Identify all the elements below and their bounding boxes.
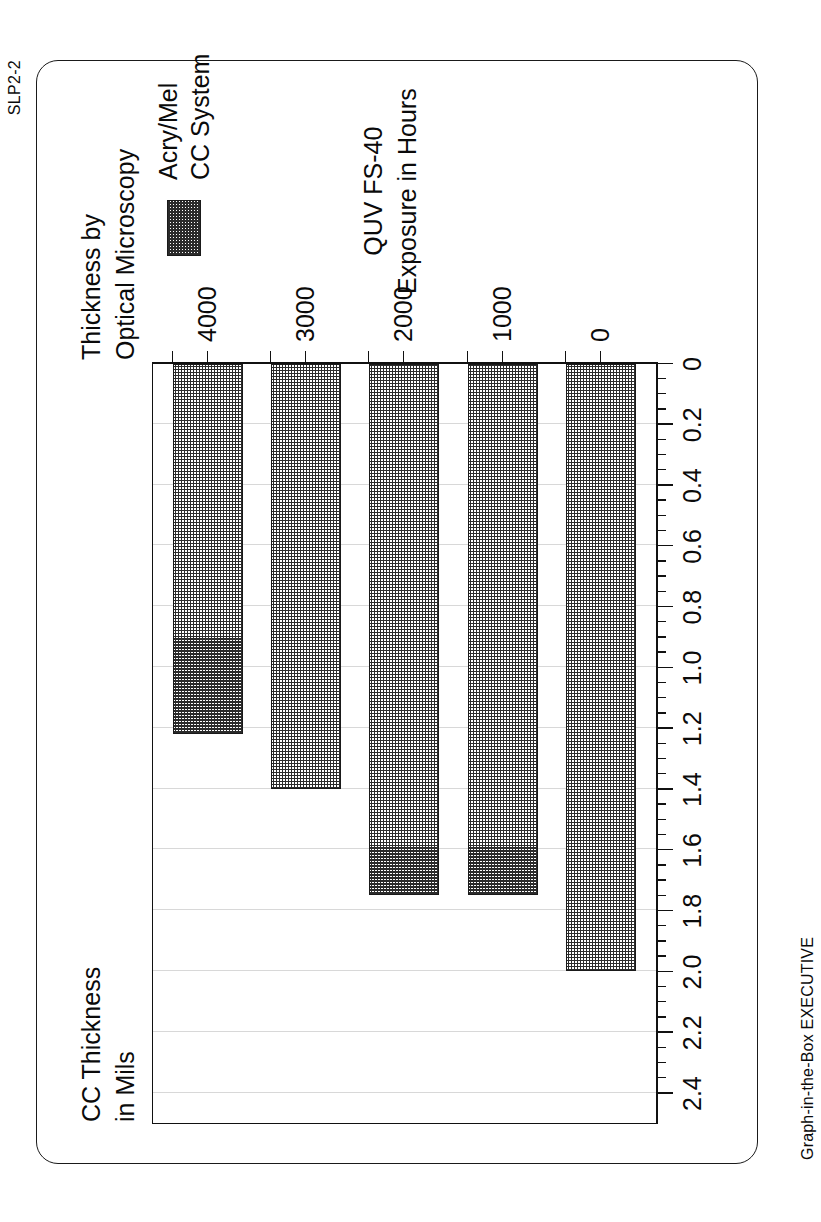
- value-axis-tick: [657, 910, 673, 911]
- bar-series-layer: [153, 364, 656, 1123]
- value-axis-tick-label: 1.0: [678, 651, 707, 686]
- category-axis-boundary-tick: [467, 351, 468, 364]
- category-axis-tick: [600, 351, 601, 364]
- value-axis-tick: [657, 545, 673, 546]
- value-axis-minor-tick: [657, 773, 666, 774]
- category-axis-label: 1000: [488, 286, 517, 342]
- value-axis-tick-label: 1.2: [678, 711, 707, 746]
- category-axis-tick: [207, 351, 208, 364]
- value-axis-line: [657, 364, 658, 1124]
- chart-title-line1: Thickness by: [74, 149, 108, 360]
- value-axis-title-line1: CC Thickness: [74, 967, 108, 1122]
- value-axis-minor-tick: [657, 439, 666, 440]
- category-axis-tick: [305, 351, 306, 364]
- legend-label: Acry/Mel CC System: [152, 54, 216, 180]
- value-axis-minor-tick: [657, 515, 666, 516]
- value-axis-title-line2: in Mils: [108, 967, 142, 1122]
- bar-row: [369, 364, 439, 1123]
- value-axis-tick: [657, 788, 673, 789]
- value-axis-minor-tick: [657, 1077, 666, 1078]
- value-axis-tick-label: 1.8: [678, 894, 707, 929]
- value-axis-minor-tick: [657, 1062, 666, 1063]
- value-axis-tick: [657, 606, 673, 607]
- rotated-page-wrapper: SLP2-2 Graph-in-the-Box EXECUTIVE CC Thi…: [0, 0, 821, 1222]
- bar-1000: [468, 364, 538, 895]
- value-axis-minor-tick: [657, 591, 666, 592]
- bar-3000: [271, 364, 341, 789]
- category-axis-title-line2: Exposure in Hours: [390, 88, 424, 294]
- value-axis-title: CC Thickness in Mils: [74, 967, 142, 1122]
- value-axis-minor-tick: [657, 651, 666, 652]
- value-axis-minor-tick: [657, 697, 666, 698]
- value-axis-tick: [657, 363, 673, 364]
- value-axis-minor-tick: [657, 469, 666, 470]
- value-axis-tick-label: 2.4: [678, 1076, 707, 1111]
- value-axis-minor-tick: [657, 621, 666, 622]
- value-axis-minor-tick: [657, 499, 666, 500]
- category-axis-label: 4000: [193, 286, 222, 342]
- bar-0: [566, 364, 636, 971]
- value-axis-minor-tick: [657, 712, 666, 713]
- value-axis-tick: [657, 1092, 673, 1093]
- value-axis-tick-label: 0.6: [678, 529, 707, 564]
- value-axis-tick-label: 1.4: [678, 772, 707, 807]
- value-axis-minor-tick: [657, 940, 666, 941]
- category-axis-boundary-tick: [368, 351, 369, 364]
- value-axis-minor-tick: [657, 864, 666, 865]
- bar-row: [173, 364, 243, 1123]
- bar-row: [566, 364, 636, 1123]
- value-axis-tick: [657, 423, 673, 424]
- value-axis-minor-tick: [657, 834, 666, 835]
- page-corner-code: SLP2-2: [6, 60, 24, 115]
- chart-title: Thickness by Optical Microscopy: [74, 149, 142, 360]
- value-axis-tick-label: 0.8: [678, 590, 707, 625]
- value-axis-minor-tick: [657, 1016, 666, 1017]
- legend-swatch-icon: [167, 200, 201, 256]
- chart-sheet: SLP2-2 Graph-in-the-Box EXECUTIVE CC Thi…: [0, 0, 821, 1222]
- value-axis-minor-tick: [657, 895, 666, 896]
- value-axis-minor-tick: [657, 408, 666, 409]
- value-axis-minor-tick: [657, 682, 666, 683]
- value-axis-tick: [657, 484, 673, 485]
- legend-label-line1: Acry/Mel: [152, 54, 184, 180]
- value-axis-minor-tick: [657, 636, 666, 637]
- chart-legend: Acry/Mel CC System: [152, 54, 216, 256]
- value-axis-minor-tick: [657, 454, 666, 455]
- page-footer-code: Graph-in-the-Box EXECUTIVE: [799, 937, 817, 1160]
- value-axis-minor-tick: [657, 1047, 666, 1048]
- category-axis-boundary-tick: [172, 351, 173, 364]
- value-axis-tick-label: 0: [678, 357, 707, 371]
- category-axis-line: [152, 362, 658, 364]
- value-axis-tick-label: 2.0: [678, 955, 707, 990]
- value-axis-tick-label: 2.2: [678, 1015, 707, 1050]
- category-axis-label: 0: [586, 328, 615, 342]
- value-axis-tick: [657, 727, 673, 728]
- value-axis-minor-tick: [657, 560, 666, 561]
- value-axis-tick: [657, 971, 673, 972]
- value-axis-minor-tick: [657, 955, 666, 956]
- value-axis-minor-tick: [657, 758, 666, 759]
- value-axis-minor-tick: [657, 393, 666, 394]
- chart-title-line2: Optical Microscopy: [108, 149, 142, 360]
- plot-area: [152, 364, 657, 1124]
- value-axis-minor-tick: [657, 986, 666, 987]
- value-axis-minor-tick: [657, 743, 666, 744]
- value-axis-tick: [657, 1031, 673, 1032]
- category-axis-tick: [403, 351, 404, 364]
- bar-2000: [369, 364, 439, 895]
- category-axis-boundary-tick: [565, 351, 566, 364]
- value-axis-minor-tick: [657, 1001, 666, 1002]
- bar-row: [271, 364, 341, 1123]
- category-axis-boundary-tick: [270, 351, 271, 364]
- value-axis-minor-tick: [657, 378, 666, 379]
- value-axis-minor-tick: [657, 575, 666, 576]
- legend-label-line2: CC System: [184, 54, 216, 180]
- category-axis-tick: [502, 351, 503, 364]
- value-axis-tick-label: 1.6: [678, 833, 707, 868]
- category-axis-title: QUV FS-40 Exposure in Hours: [356, 88, 424, 294]
- value-axis-tick: [657, 849, 673, 850]
- category-axis-label: 3000: [291, 286, 320, 342]
- value-axis-minor-tick: [657, 819, 666, 820]
- bar-row: [468, 364, 538, 1123]
- category-axis-title-line1: QUV FS-40: [356, 88, 390, 294]
